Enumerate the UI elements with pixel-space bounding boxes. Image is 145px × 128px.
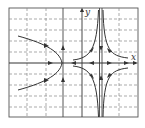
lower-right-branch xyxy=(103,68,128,117)
arrow-left-icon xyxy=(89,61,94,65)
arrow-left-icon xyxy=(71,61,76,65)
upper-right-branch xyxy=(103,10,128,58)
arrow-icon xyxy=(89,74,94,79)
arrow-right-icon xyxy=(124,61,129,65)
y-axis-label: y xyxy=(84,7,91,17)
upper-left-branch xyxy=(73,10,99,60)
x-axis-label: x xyxy=(131,52,136,62)
arrow-right-icon xyxy=(107,61,112,65)
arrow-up-icon xyxy=(61,45,65,50)
arrow-right-icon xyxy=(48,61,53,65)
arrow-up-icon xyxy=(61,77,65,82)
phase-portrait-diagram: y x xyxy=(0,0,145,128)
arrow-icon xyxy=(89,47,94,52)
